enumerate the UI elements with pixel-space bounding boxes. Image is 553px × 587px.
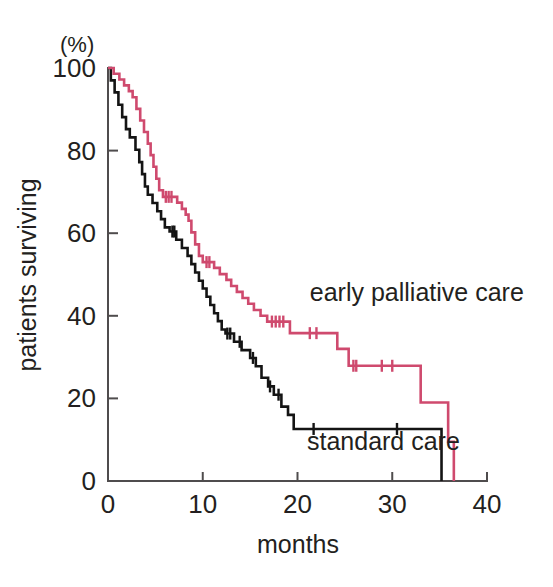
- curve-standard-care: [108, 68, 442, 481]
- x-tick-label-30: 30: [378, 489, 407, 519]
- kaplan-meier-chart: 010203040 020406080100 (%) patients surv…: [0, 0, 553, 587]
- x-tick-label-40: 40: [473, 489, 502, 519]
- y-tick-label-group: 020406080100: [53, 53, 96, 496]
- series-curves: [108, 68, 454, 481]
- y-axis-title: patients surviving: [13, 178, 41, 371]
- y-tick-label-80: 80: [67, 136, 96, 166]
- curve-early-palliative-care: [108, 68, 454, 481]
- plot-axes: [108, 68, 487, 481]
- km-plot-svg: 010203040 020406080100 (%) patients surv…: [0, 0, 553, 587]
- series-label-early-palliative-care: early palliative care: [310, 278, 524, 306]
- y-tick-label-60: 60: [67, 218, 96, 248]
- y-tick-label-20: 20: [67, 383, 96, 413]
- x-axis-title: months: [257, 530, 339, 558]
- x-tick-label-0: 0: [101, 489, 115, 519]
- y-axis-unit-label: (%): [60, 32, 94, 57]
- x-axis-ticks: [108, 472, 487, 481]
- x-tick-label-group: 010203040: [101, 489, 502, 519]
- y-tick-label-40: 40: [67, 301, 96, 331]
- y-axis-ticks: [108, 151, 118, 399]
- series-label-standard-care: standard care: [307, 427, 460, 455]
- y-tick-label-0: 0: [82, 466, 96, 496]
- x-tick-label-10: 10: [188, 489, 217, 519]
- x-tick-label-20: 20: [283, 489, 312, 519]
- y-tick-label-100: 100: [53, 53, 96, 83]
